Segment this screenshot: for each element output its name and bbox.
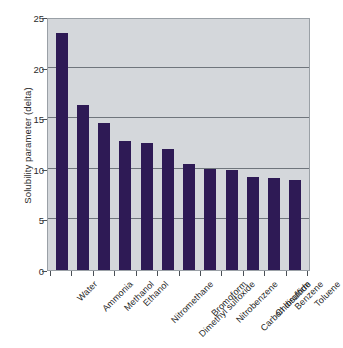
bar-slot — [115, 19, 136, 270]
y-axis-tick-label: 20 — [4, 63, 44, 74]
x-axis-tick-mark — [93, 271, 94, 276]
bar — [204, 169, 216, 270]
bar-slot — [72, 19, 93, 270]
x-axis-tick-label: Water — [75, 279, 99, 303]
bar — [141, 143, 153, 271]
bar — [247, 177, 259, 270]
y-axis-tick-label: 5 — [4, 215, 44, 226]
x-axis-tick-mark — [50, 271, 51, 276]
x-axis-tick-mark — [264, 271, 265, 276]
y-axis-tick-label: 25 — [4, 13, 44, 24]
x-axis-tick-mark — [136, 271, 137, 276]
x-axis-tick-mark — [243, 271, 244, 276]
bar — [98, 123, 110, 270]
bar-slot — [179, 19, 200, 270]
bar-slot — [200, 19, 221, 270]
y-axis-title: Solubility parameter (delta) — [22, 66, 33, 226]
x-axis-tick-mark — [114, 271, 115, 276]
bar — [162, 149, 174, 270]
x-axis-tick-mark — [71, 271, 72, 276]
bar — [268, 178, 280, 270]
bar — [56, 33, 68, 270]
y-axis-tick-label: 10 — [4, 164, 44, 175]
bar — [77, 105, 89, 270]
bar-slot — [221, 19, 242, 270]
bar — [226, 170, 238, 270]
bar-group — [48, 19, 309, 270]
x-axis-tick-mark — [179, 271, 180, 276]
bar-slot — [51, 19, 72, 270]
x-axis-tick-mark — [157, 271, 158, 276]
bar-slot — [242, 19, 263, 270]
bar-slot — [285, 19, 306, 270]
plot-area — [47, 18, 310, 271]
bar-slot — [94, 19, 115, 270]
bar-slot — [157, 19, 178, 270]
bar — [183, 164, 195, 270]
bar — [119, 141, 131, 270]
x-axis-tick-mark — [307, 271, 308, 276]
x-axis-tick-mark — [286, 271, 287, 276]
bar — [289, 180, 301, 270]
bar-slot — [136, 19, 157, 270]
bar-slot — [264, 19, 285, 270]
y-axis-tick-mark — [42, 271, 47, 272]
y-axis-tick-label: 15 — [4, 114, 44, 125]
x-axis-tick-mark — [200, 271, 201, 276]
x-axis-tick-mark — [221, 271, 222, 276]
y-axis-tick-label: 0 — [4, 266, 44, 277]
